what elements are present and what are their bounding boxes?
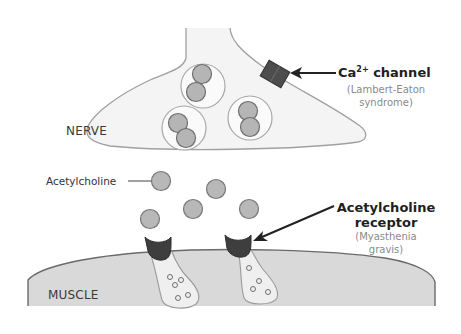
lambert-eaton-line2: syndrome)	[344, 96, 428, 109]
ca-channel-label: Ca2+ channel	[338, 65, 431, 80]
nerve-terminal-shape	[87, 28, 366, 149]
synaptic-vesicle	[162, 106, 206, 150]
nerve-label: NERVE	[66, 124, 107, 138]
muscle-label: MUSCLE	[48, 288, 99, 302]
receptor-arrow	[253, 206, 334, 241]
ca-channel-name: Ca	[338, 65, 356, 80]
ca-channel-superscript: 2+	[356, 65, 368, 74]
synaptic-vesicle	[181, 64, 225, 108]
ach-receptor-line2: receptor	[334, 215, 438, 230]
myasthenia-line2: gravis)	[346, 243, 426, 256]
lambert-eaton-label: (Lambert-Eaton syndrome)	[344, 83, 428, 109]
lambert-eaton-line1: (Lambert-Eaton	[344, 83, 428, 96]
acetylcholine-label: Acetylcholine	[46, 175, 116, 187]
acetylcholine-molecule	[207, 180, 226, 199]
ach-receptor-label: Acetylcholine receptor	[334, 200, 438, 230]
synaptic-vesicle	[228, 96, 272, 140]
ach-receptor-line1: Acetylcholine	[334, 200, 438, 215]
myasthenia-gravis-label: (Myasthenia gravis)	[346, 230, 426, 256]
acetylcholine-molecule	[141, 210, 160, 229]
neuromuscular-junction-diagram	[0, 0, 461, 334]
acetylcholine-molecule	[152, 172, 171, 191]
acetylcholine-molecule	[184, 200, 203, 219]
ca-channel-suffix: channel	[369, 65, 431, 80]
acetylcholine-molecule	[240, 200, 259, 219]
myasthenia-line1: (Myasthenia	[346, 230, 426, 243]
ca-channel-arrow	[290, 67, 336, 79]
